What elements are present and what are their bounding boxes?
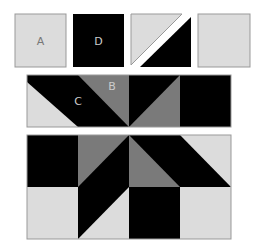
strip-label-b: B: [108, 80, 116, 93]
piece-plain-light: [198, 14, 250, 67]
piece-a-label: A: [37, 35, 45, 48]
piece-half-square-triangles: [131, 14, 191, 67]
piece-a: A: [15, 14, 66, 67]
quilt-pattern-diagram: A D C B: [0, 0, 260, 252]
assembled-strip: C B: [27, 75, 231, 127]
assembled-block: [27, 135, 231, 239]
piece-d: D: [73, 14, 124, 67]
piece-d-label: D: [94, 35, 102, 48]
strip-label-c: C: [74, 95, 82, 108]
